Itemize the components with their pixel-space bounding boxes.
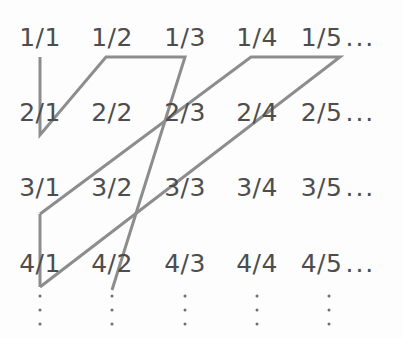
dot [328, 295, 331, 298]
fraction-label: 4/1 [19, 251, 61, 276]
fraction-label: 2/2 [91, 100, 133, 125]
fraction-label: 4/5 [301, 251, 343, 276]
dot [111, 309, 114, 312]
grid-cell-r4c1: 4/1 [19, 251, 61, 276]
grid-cell-r1c1: 1/1 [19, 25, 61, 50]
grid-cell-r2c1: 2/1 [19, 100, 61, 125]
fraction-label: 4/3 [164, 251, 206, 276]
grid-cell-r2c3: 2/3 [164, 100, 206, 125]
column-dots-c3 [184, 295, 187, 326]
grid-cell-r1c5: 1/5... [301, 25, 376, 50]
grid-cell-r3c4: 3/4 [236, 175, 278, 200]
cantor-enumeration-figure: 1/1 1/2 1/3 1/4 1/5... 2/1 2/2 2/3 2/4 2… [0, 0, 403, 338]
fraction-label: 1/2 [91, 25, 133, 50]
fraction-label: 1/5 [301, 25, 343, 50]
dot [256, 309, 259, 312]
dot [111, 295, 114, 298]
grid-cell-r4c5: 4/5... [301, 251, 376, 276]
grid-cell-r1c2: 1/2 [91, 25, 133, 50]
grid-cell-r1c4: 1/4 [236, 25, 278, 50]
grid-cell-r2c5: 2/5... [301, 100, 376, 125]
dot [39, 323, 42, 326]
grid-cell-r2c2: 2/2 [91, 100, 133, 125]
fraction-label: 2/5 [301, 100, 343, 125]
fraction-label: 1/4 [236, 25, 278, 50]
fraction-label: 2/4 [236, 100, 278, 125]
dot [256, 323, 259, 326]
grid-cell-r3c3: 3/3 [164, 175, 206, 200]
dot [184, 295, 187, 298]
fraction-label: 4/4 [236, 251, 278, 276]
dot [328, 323, 331, 326]
fraction-label: 1/1 [19, 25, 61, 50]
column-dots-c2 [111, 295, 114, 326]
row-ellipsis: ... [345, 25, 375, 50]
fraction-label: 3/4 [236, 175, 278, 200]
dot [184, 309, 187, 312]
fraction-label: 3/3 [164, 175, 206, 200]
grid-cell-r3c2: 3/2 [91, 175, 133, 200]
fraction-label: 3/2 [91, 175, 133, 200]
column-dots-c1 [39, 295, 42, 326]
dot [39, 309, 42, 312]
row-ellipsis: ... [345, 175, 375, 200]
grid-cell-r4c3: 4/3 [164, 251, 206, 276]
row-ellipsis: ... [345, 100, 375, 125]
dot [328, 309, 331, 312]
fraction-label: 2/1 [19, 100, 61, 125]
fraction-label: 4/2 [91, 251, 133, 276]
grid-cell-r3c5: 3/5... [301, 175, 376, 200]
grid-cell-r1c3: 1/3 [164, 25, 206, 50]
fraction-label: 3/5 [301, 175, 343, 200]
column-dots-c4 [256, 295, 259, 326]
fraction-label: 2/3 [164, 100, 206, 125]
grid-cell-r4c2: 4/2 [91, 251, 133, 276]
dot [256, 295, 259, 298]
grid-cell-r3c1: 3/1 [19, 175, 61, 200]
dot [39, 295, 42, 298]
fraction-label: 3/1 [19, 175, 61, 200]
dot [111, 323, 114, 326]
grid-cell-r4c4: 4/4 [236, 251, 278, 276]
row-ellipsis: ... [345, 251, 375, 276]
column-dots-c5 [328, 295, 331, 326]
fraction-label: 1/3 [164, 25, 206, 50]
dot [184, 323, 187, 326]
grid-cell-r2c4: 2/4 [236, 100, 278, 125]
